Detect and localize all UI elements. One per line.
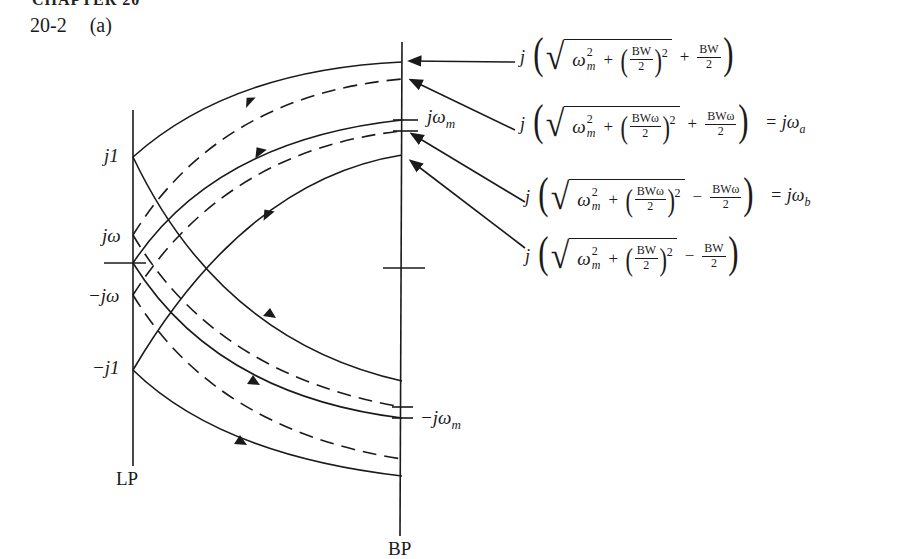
lp-label-jw: jω	[102, 225, 121, 247]
curve-origin-lower	[133, 263, 402, 418]
equation-2: j ( √ ω 2m + ( BWω2 ) 2 + BWω2 ) = jωa	[520, 105, 805, 143]
curve-neg-j1-upper	[133, 155, 402, 370]
arrow-icon	[262, 209, 275, 221]
bp-label-jwm: jωm	[427, 106, 455, 132]
leader-arrow-1	[410, 61, 515, 62]
equation-4: j ( √ ω 2m + ( BW2 ) 2 − BW2 )	[525, 237, 740, 275]
lp-label-j1: j1	[104, 145, 119, 167]
bp-label-neg-jwm: −jωm	[420, 407, 461, 433]
equation-3: j ( √ ω 2m + ( BWω2 ) 2 − BWω2 ) = jωb	[525, 178, 810, 216]
direction-arrows	[234, 96, 276, 445]
lp-label-neg-j1: −j1	[92, 357, 120, 379]
radical-icon: √	[546, 105, 565, 142]
lp-label-neg-jw: −jω	[88, 285, 120, 307]
leader-arrow-4	[411, 161, 525, 248]
leader-arrow-3	[412, 134, 525, 202]
arrow-icon	[245, 96, 257, 107]
radical-icon: √	[551, 237, 570, 274]
lp-axis-label: LP	[116, 468, 138, 490]
curve-j1-upper	[133, 62, 402, 157]
bp-axis-label: BP	[388, 538, 411, 559]
arrow-icon	[263, 308, 276, 318]
curve-neg-j1-lower	[133, 370, 402, 476]
curve-neg-jw-lower	[133, 295, 402, 459]
bp-axis-line	[400, 42, 402, 536]
radical-icon: √	[546, 38, 565, 75]
radical-icon: √	[551, 178, 570, 215]
equation-1: j ( √ ω 2m + ( BW2 ) 2 + BW2 )	[520, 38, 735, 76]
